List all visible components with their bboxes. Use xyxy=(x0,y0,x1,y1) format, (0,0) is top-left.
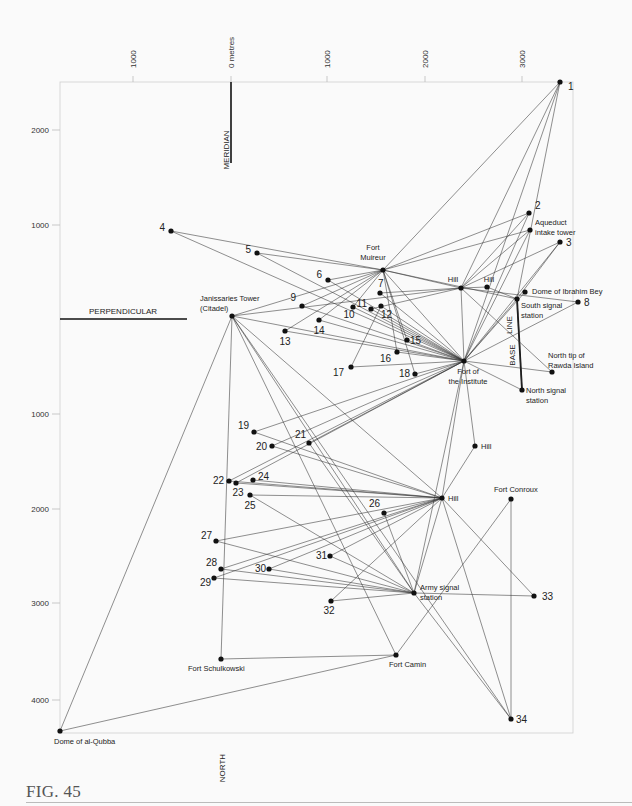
station-dot xyxy=(380,267,385,272)
station-label: Dome of al-Qubba xyxy=(54,737,116,746)
station-13: 13 xyxy=(279,328,291,347)
station-label: 1 xyxy=(568,81,574,92)
station-dot xyxy=(266,566,271,571)
sight-line xyxy=(331,593,414,601)
station-label: 19 xyxy=(238,420,250,431)
station-hill3: Hill xyxy=(472,442,491,451)
station-dot xyxy=(325,277,330,282)
station-dot xyxy=(254,250,259,255)
station-label: 2 xyxy=(535,200,541,211)
station-1: 1 xyxy=(557,79,574,92)
sight-line xyxy=(442,498,511,719)
station-dot xyxy=(229,313,234,318)
station-dot xyxy=(218,566,223,571)
station-17: 17 xyxy=(333,364,354,378)
sight-line xyxy=(383,213,529,270)
sight-line xyxy=(221,655,396,659)
station-20: 20 xyxy=(256,441,275,452)
station-label: 17 xyxy=(333,367,345,378)
station-label: 22 xyxy=(213,475,225,486)
sight-line xyxy=(380,288,461,293)
sight-line xyxy=(330,498,442,556)
station-dot xyxy=(211,575,216,580)
sight-line xyxy=(517,82,560,299)
station-label: 18 xyxy=(399,368,411,379)
station-dot xyxy=(250,477,255,482)
sight-line xyxy=(461,288,464,361)
station-label: Hill xyxy=(448,494,459,503)
station-fi: Fort ofthe Institute xyxy=(449,358,488,386)
station-label: Aqueduct xyxy=(535,218,568,227)
station-label: the Institute xyxy=(449,377,488,386)
station-dot xyxy=(508,716,513,721)
station-4: 4 xyxy=(159,222,173,234)
station-dot xyxy=(461,358,466,363)
station-dot xyxy=(168,228,173,233)
station-label: 32 xyxy=(323,605,335,616)
station-dot xyxy=(381,510,386,515)
y-tick-label: 1000 xyxy=(31,221,49,230)
station-label: Janissaries Tower xyxy=(200,294,260,303)
station-aq: Aqueductintake tower xyxy=(527,218,576,237)
station-29: 29 xyxy=(200,575,217,588)
sight-line xyxy=(254,361,464,432)
sight-line xyxy=(461,213,529,288)
station-23: 23 xyxy=(232,480,244,498)
figure-caption: FIG. 45 xyxy=(26,782,81,802)
station-dot xyxy=(575,299,580,304)
x-tick-label: 1000 xyxy=(129,50,138,68)
station-dot xyxy=(404,337,409,342)
station-dot xyxy=(514,296,519,301)
station-28: 28 xyxy=(206,557,224,572)
station-dot xyxy=(522,289,527,294)
station-label: 20 xyxy=(256,441,268,452)
station-dot xyxy=(472,443,477,448)
station-3: 3 xyxy=(557,237,572,248)
station-dib: Dome of Ibrahim Bey xyxy=(522,287,602,296)
station-24: 24 xyxy=(250,471,269,483)
station-22: 22 xyxy=(213,475,232,486)
stations: 12Aqueductintake tower345FortMuireur6Hil… xyxy=(54,79,603,746)
station-label: 5 xyxy=(245,244,251,255)
station-32: 32 xyxy=(323,598,335,616)
station-dot xyxy=(306,440,311,445)
station-dot xyxy=(458,285,463,290)
station-26: 26 xyxy=(369,498,387,516)
station-label: 29 xyxy=(200,577,212,588)
sight-line xyxy=(254,432,442,498)
station-dot xyxy=(269,443,274,448)
station-label: Fort xyxy=(366,243,380,252)
station-33: 33 xyxy=(531,591,553,602)
sight-line xyxy=(171,231,383,270)
station-fc: Fort Conroux xyxy=(494,485,538,502)
station-label: 21 xyxy=(295,429,307,440)
sight-line xyxy=(236,361,464,483)
station-label: 6 xyxy=(316,269,322,280)
station-label: Hill xyxy=(448,275,459,284)
x-tick-label: 0 metres xyxy=(227,37,236,68)
station-label: Muireur xyxy=(360,253,386,262)
station-label: North signal xyxy=(526,386,566,395)
base-line-label-base: BASE xyxy=(508,344,517,365)
plot-frame xyxy=(60,82,573,733)
station-label: Hill xyxy=(481,442,492,451)
station-dot xyxy=(299,303,304,308)
station-27: 27 xyxy=(201,530,219,544)
station-dot xyxy=(57,728,62,733)
station-dot xyxy=(368,306,373,311)
station-fcamin: Fort Camin xyxy=(389,652,426,669)
station-dot xyxy=(557,79,562,84)
station-label: station xyxy=(420,593,442,602)
sight-line xyxy=(461,242,560,288)
sight-line xyxy=(232,270,383,316)
perpendicular-label: PERPENDICULAR xyxy=(89,307,157,316)
sight-line xyxy=(269,569,414,593)
station-dot xyxy=(549,369,554,374)
station-dot xyxy=(484,284,489,289)
sight-line xyxy=(442,446,475,498)
sight-line xyxy=(461,82,560,288)
sight-line xyxy=(272,446,442,498)
station-label: South signal xyxy=(521,301,563,310)
station-dot xyxy=(233,480,238,485)
sight-line xyxy=(383,82,560,270)
